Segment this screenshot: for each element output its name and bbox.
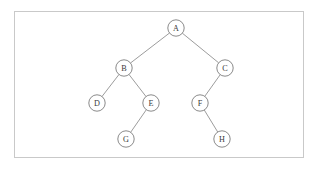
tree-node-a[interactable]: A xyxy=(168,20,184,36)
tree-node-b[interactable]: B xyxy=(116,60,132,76)
tree-node-e[interactable]: E xyxy=(143,95,159,111)
tree-node-c[interactable]: C xyxy=(217,60,233,76)
node-circle-d xyxy=(89,95,105,111)
node-circle-e xyxy=(143,95,159,111)
node-circle-c xyxy=(217,60,233,76)
tree-edge-a-c xyxy=(182,33,218,63)
tree-node-f[interactable]: F xyxy=(192,95,208,111)
node-layer: ABCDEFGH xyxy=(89,20,233,147)
tree-edge-b-d xyxy=(102,74,119,96)
node-circle-f xyxy=(192,95,208,111)
tree-edge-e-g xyxy=(131,110,147,133)
tree-node-d[interactable]: D xyxy=(89,95,105,111)
tree-edge-f-h xyxy=(204,110,217,132)
tree-edge-a-b xyxy=(131,33,170,63)
tree-edge-c-f xyxy=(205,75,220,97)
node-circle-b xyxy=(116,60,132,76)
node-circle-a xyxy=(168,20,184,36)
tree-edge-b-e xyxy=(129,74,146,96)
figure-root: ABCDEFGH xyxy=(0,0,319,170)
edge-layer xyxy=(102,33,220,132)
binary-tree-diagram: ABCDEFGH xyxy=(0,0,319,170)
node-circle-h xyxy=(214,131,230,147)
tree-node-h[interactable]: H xyxy=(214,131,230,147)
tree-node-g[interactable]: G xyxy=(118,131,134,147)
node-circle-g xyxy=(118,131,134,147)
